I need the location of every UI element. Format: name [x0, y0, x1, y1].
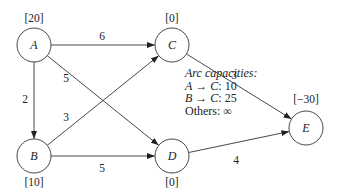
node-label: B — [30, 149, 38, 163]
arc-capacities-note: Arc capacities: A → C: 10 B → C: 25 Othe… — [185, 67, 258, 117]
node-b: B[10] — [17, 139, 51, 188]
node-label: E — [301, 121, 310, 135]
node-d: D[0] — [155, 139, 189, 188]
node-supply-d: [0] — [165, 176, 178, 188]
network-diagram: 6523534 A[20]B[10]C[0]D[0]E[−30] — [0, 0, 339, 190]
node-e: E[−30] — [289, 93, 323, 145]
edge-cost-d-e: 4 — [233, 154, 239, 166]
note-line-bc: B → C: 25 — [185, 92, 258, 105]
note-others: Others: ∞ — [185, 105, 258, 118]
edge-cost-b-c: 3 — [63, 111, 69, 123]
edge-cost-b-d: 5 — [99, 162, 105, 174]
edge-cost-a-b: 2 — [22, 93, 28, 105]
node-supply-a: [20] — [24, 12, 43, 24]
edge-cost-a-d: 5 — [63, 72, 69, 84]
node-c: C[0] — [155, 12, 189, 62]
node-label: D — [167, 149, 177, 163]
node-label: C — [168, 38, 177, 52]
node-supply-e: [−30] — [293, 93, 319, 105]
node-supply-c: [0] — [165, 12, 178, 24]
edge-d-e — [189, 132, 289, 153]
node-a: A[20] — [17, 12, 51, 62]
node-supply-b: [10] — [24, 176, 43, 188]
node-label: A — [29, 38, 38, 52]
edge-cost-a-c: 6 — [99, 30, 105, 42]
